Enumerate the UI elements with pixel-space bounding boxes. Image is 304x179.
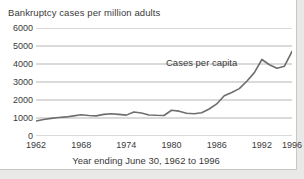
x-tick-label: 1980 — [162, 140, 182, 150]
line-chart-svg — [36, 28, 292, 136]
x-tick-label: 1974 — [116, 140, 136, 150]
x-tick-label: 1986 — [207, 140, 227, 150]
series-annotation-label: Cases per capita — [166, 57, 237, 68]
y-tick-label: 6000 — [13, 23, 33, 33]
chart-figure: Bankruptcy cases per million adults 0100… — [0, 0, 297, 170]
plot-area — [36, 28, 292, 136]
y-tick-label: 2000 — [13, 95, 33, 105]
y-tick-label: 4000 — [13, 59, 33, 69]
data-line-cases-per-capita — [36, 51, 292, 121]
x-tick-label: 1968 — [71, 140, 91, 150]
x-tick-label: 1962 — [26, 140, 46, 150]
y-axis-tick-labels: 0100020003000400050006000 — [0, 28, 33, 136]
y-tick-label: 1000 — [13, 113, 33, 123]
y-tick-label: 3000 — [13, 77, 33, 87]
chart-title: Bankruptcy cases per million adults — [8, 7, 160, 18]
x-axis-tick-labels: 1962196819741980198619921996 — [36, 140, 292, 154]
y-tick-label: 5000 — [13, 41, 33, 51]
x-axis-label: Year ending June 30, 1962 to 1996 — [0, 155, 292, 166]
gridlines — [36, 28, 292, 136]
x-tick-label: 1992 — [252, 140, 272, 150]
x-tick-label: 1996 — [282, 140, 302, 150]
